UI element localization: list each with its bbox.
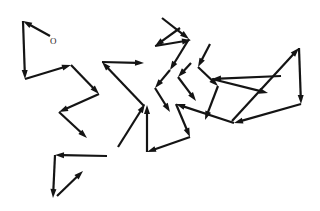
seg-16 bbox=[162, 18, 189, 39]
origin-label: O bbox=[50, 37, 57, 46]
seg-28 bbox=[298, 48, 304, 104]
segment-shaft bbox=[202, 44, 210, 60]
segment-shaft bbox=[154, 137, 190, 149]
seg-27 bbox=[232, 48, 299, 121]
segment-shaft bbox=[59, 112, 81, 133]
segment-shaft bbox=[53, 155, 55, 190]
segment-shaft bbox=[183, 63, 191, 71]
segment-shaft bbox=[57, 176, 77, 196]
arrowhead-icon bbox=[198, 58, 205, 67]
seg-09 bbox=[57, 171, 83, 196]
seg-10 bbox=[102, 62, 144, 106]
seg-18 bbox=[155, 70, 170, 88]
seg-06 bbox=[59, 112, 87, 138]
arrowhead-icon bbox=[135, 60, 144, 66]
seg-23 bbox=[198, 67, 218, 86]
seg-08 bbox=[50, 155, 56, 198]
seg-05 bbox=[59, 94, 99, 112]
segment-shaft bbox=[160, 70, 170, 82]
segment-shaft bbox=[208, 86, 218, 113]
arrow-path-figure bbox=[0, 0, 320, 211]
arrowhead-icon bbox=[55, 152, 64, 158]
segments-layer bbox=[22, 18, 304, 198]
seg-30 bbox=[176, 104, 234, 123]
seg-01 bbox=[23, 21, 50, 36]
drawing-canvas: O bbox=[0, 0, 320, 211]
arrowhead-icon bbox=[50, 189, 56, 198]
segment-shaft bbox=[299, 48, 301, 96]
arrowhead-icon bbox=[147, 146, 156, 152]
seg-32 bbox=[147, 137, 190, 152]
arrowhead-icon bbox=[59, 106, 68, 112]
segment-shaft bbox=[212, 79, 261, 91]
segment-shaft bbox=[30, 25, 50, 36]
arrowhead-icon bbox=[298, 95, 304, 104]
segment-shaft bbox=[66, 94, 99, 109]
segment-shaft bbox=[63, 155, 107, 156]
seg-22 bbox=[198, 44, 210, 67]
segment-shaft bbox=[118, 110, 141, 147]
segment-shaft bbox=[198, 67, 212, 81]
segment-shaft bbox=[155, 88, 166, 106]
arrowhead-icon bbox=[144, 105, 150, 114]
seg-13 bbox=[144, 105, 150, 152]
segment-shaft bbox=[241, 104, 301, 121]
seg-19 bbox=[155, 88, 170, 112]
segment-shaft bbox=[25, 67, 64, 79]
segment-shaft bbox=[162, 18, 183, 34]
seg-11 bbox=[102, 60, 144, 66]
seg-03 bbox=[25, 65, 71, 79]
segment-shaft bbox=[102, 62, 136, 63]
segment-shaft bbox=[71, 65, 94, 88]
seg-21 bbox=[178, 77, 196, 101]
seg-02 bbox=[22, 21, 28, 79]
arrowhead-icon bbox=[138, 104, 145, 113]
arrowhead-icon bbox=[62, 65, 71, 71]
seg-20 bbox=[178, 63, 191, 77]
arrowhead-icon bbox=[170, 61, 177, 70]
arrowhead-icon bbox=[163, 103, 170, 112]
seg-12 bbox=[118, 104, 145, 147]
arrowhead-icon bbox=[184, 128, 190, 137]
seg-07 bbox=[55, 152, 107, 158]
seg-04 bbox=[71, 65, 99, 94]
segment-shaft bbox=[23, 21, 25, 71]
arrowhead-icon bbox=[23, 21, 32, 28]
segment-shaft bbox=[178, 77, 191, 95]
segment-shaft bbox=[107, 68, 144, 106]
